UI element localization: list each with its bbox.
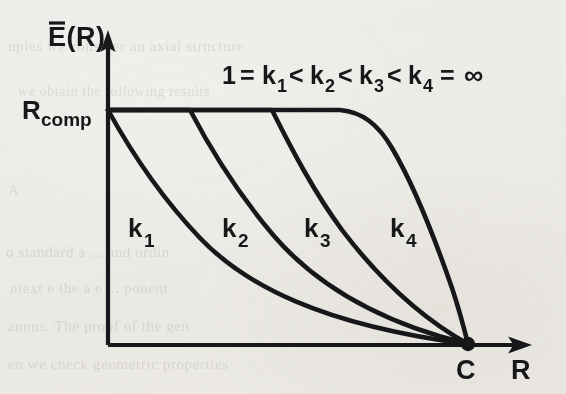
reliability-exponent-chart: E(R) R comp C R 1 = k 1 < k 2 < k 3 < k … xyxy=(0,0,566,394)
annotation-k4-base: k xyxy=(408,61,422,89)
x-axis-label: R xyxy=(511,355,531,385)
convergence-point-marker xyxy=(461,337,475,351)
curve-k3 xyxy=(108,110,468,344)
annotation-k4-sub: 4 xyxy=(423,76,433,96)
y-tick-label-base: R xyxy=(22,95,41,125)
curve-label-k1-base: k xyxy=(128,213,143,243)
curve-label-k4-sub: 4 xyxy=(406,230,417,251)
curve-label-k1-sub: 1 xyxy=(144,230,155,251)
curve-label-k2-sub: 2 xyxy=(238,230,249,251)
curve-label-k3-sub: 3 xyxy=(320,230,331,251)
figure-root: nples we consider an axial structure we … xyxy=(0,0,566,394)
annotation-k2-base: k xyxy=(310,61,324,89)
curve-label-k2: k 2 xyxy=(222,213,249,251)
annotation-k3-sub: 3 xyxy=(374,76,384,96)
y-tick-label-subscript: comp xyxy=(41,109,92,130)
annotation-infinity: ∞ xyxy=(464,60,483,90)
curve-label-k3-base: k xyxy=(304,213,319,243)
annotation-lt-2: < xyxy=(338,61,353,89)
annotation-lt-3: < xyxy=(387,61,402,89)
y-axis-label: E(R) xyxy=(48,22,106,52)
annotation-eq-1: = xyxy=(240,61,255,89)
annotation-k1-sub: 1 xyxy=(277,76,287,96)
y-axis-label-group: E(R) xyxy=(48,22,106,52)
annotation-k1-base: k xyxy=(262,61,276,89)
y-tick-label-rcomp: R comp xyxy=(22,95,92,130)
x-tick-label-c: C xyxy=(456,355,476,385)
annotation-lt-1: < xyxy=(289,61,304,89)
ordering-annotation: 1 = k 1 < k 2 < k 3 < k 4 = ∞ xyxy=(222,60,483,96)
curve-label-k1: k 1 xyxy=(128,213,155,251)
curve-label-k4-base: k xyxy=(390,213,405,243)
curve-label-k2-base: k xyxy=(222,213,237,243)
curve-label-k4: k 4 xyxy=(390,213,417,251)
annotation-k2-sub: 2 xyxy=(325,76,335,96)
annotation-one: 1 xyxy=(222,61,236,89)
curves-group xyxy=(108,110,468,344)
annotation-k3-base: k xyxy=(359,61,373,89)
annotation-eq-2: = xyxy=(440,61,455,89)
curve-label-k3: k 3 xyxy=(304,213,331,251)
